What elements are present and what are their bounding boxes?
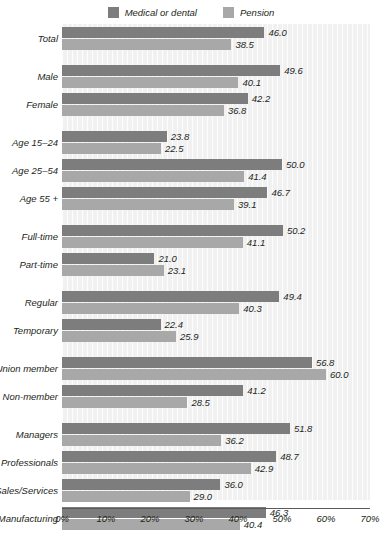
category-label: Male: [0, 62, 58, 90]
bar-pension: [62, 105, 224, 116]
bar-medical: [62, 159, 282, 170]
bar-row: 41.2: [62, 385, 382, 396]
bar-group-list: Total46.038.5Male49.640.1Female42.236.8A…: [0, 24, 382, 532]
bar-group: Age 25–5450.041.4: [0, 156, 382, 184]
bar-medical: [62, 93, 248, 104]
bar-value-label: 42.2: [252, 93, 271, 104]
bar-row: 21.0: [62, 253, 382, 264]
bar-value-label: 23.1: [168, 265, 187, 276]
bar-pension: [62, 237, 243, 248]
bar-group: Total46.038.5: [0, 24, 382, 52]
bar-row: 36.8: [62, 105, 382, 116]
bar-group: Male49.640.1: [0, 62, 382, 90]
bar-row: 51.8: [62, 423, 382, 434]
bar-value-label: 50.2: [287, 225, 306, 236]
bar-row: 42.2: [62, 93, 382, 104]
x-tick-label: 0%: [55, 512, 69, 526]
x-tick-label: 60%: [316, 512, 335, 526]
bar-row: 28.5: [62, 397, 382, 408]
bar-medical: [62, 357, 312, 368]
bar-row: 56.8: [62, 357, 382, 368]
x-axis: 0%10%20%30%40%50%60%70%: [0, 508, 382, 542]
bar-row: 60.0: [62, 369, 382, 380]
bar-row: 41.1: [62, 237, 382, 248]
bar-pension: [62, 39, 231, 50]
bar-group: Female42.236.8: [0, 90, 382, 118]
bar-pension: [62, 331, 176, 342]
bar-group: Full-time50.241.1: [0, 222, 382, 250]
legend-label: Pension: [240, 7, 274, 18]
bar-row: 23.8: [62, 131, 382, 142]
bar-value-label: 39.1: [238, 199, 257, 210]
bar-group: Age 55 +46.739.1: [0, 184, 382, 212]
category-label: Age 25–54: [0, 156, 58, 184]
x-tick-label: 20%: [140, 512, 159, 526]
bar-row: 49.4: [62, 291, 382, 302]
category-label: Part-time: [0, 250, 58, 278]
bar-medical: [62, 27, 264, 38]
category-label: Professionals: [0, 448, 58, 476]
legend-swatch-icon: [108, 7, 119, 18]
bar-medical: [62, 65, 280, 76]
bar-pension: [62, 171, 244, 182]
bar-value-label: 23.8: [171, 131, 190, 142]
chart-legend: Medical or dentalPension: [0, 2, 382, 22]
bar-medical: [62, 253, 154, 264]
category-label: Union member: [0, 354, 58, 382]
bar-group: Age 15–2423.822.5: [0, 128, 382, 156]
bar-medical: [62, 131, 167, 142]
bar-medical: [62, 423, 290, 434]
bar-group: Temporary22.425.9: [0, 316, 382, 344]
bar-row: 22.4: [62, 319, 382, 330]
bar-value-label: 56.8: [316, 357, 335, 368]
bar-pension: [62, 463, 251, 474]
bar-row: 38.5: [62, 39, 382, 50]
bar-value-label: 38.5: [235, 39, 254, 50]
bar-group: Union member56.860.0: [0, 354, 382, 382]
bar-row: 25.9: [62, 331, 382, 342]
bar-row: 50.2: [62, 225, 382, 236]
category-label: Managers: [0, 420, 58, 448]
category-label: Female: [0, 90, 58, 118]
bar-row: 39.1: [62, 199, 382, 210]
bar-pension: [62, 491, 190, 502]
bar-value-label: 48.7: [280, 451, 299, 462]
bar-value-label: 36.8: [228, 105, 247, 116]
bar-value-label: 46.0: [268, 27, 287, 38]
legend-item-pension: Pension: [223, 7, 274, 18]
category-label: Non-member: [0, 382, 58, 410]
bar-value-label: 49.4: [283, 291, 302, 302]
bar-pension: [62, 77, 238, 88]
bar-pension: [62, 199, 234, 210]
bar-value-label: 21.0: [158, 253, 177, 264]
bar-value-label: 46.7: [271, 187, 290, 198]
x-tick-label: 50%: [272, 512, 291, 526]
bar-medical: [62, 319, 161, 330]
bar-value-label: 50.0: [286, 159, 305, 170]
bar-value-label: 42.9: [255, 463, 274, 474]
bar-row: 46.7: [62, 187, 382, 198]
bar-value-label: 36.0: [224, 479, 243, 490]
legend-label: Medical or dental: [125, 7, 197, 18]
bar-value-label: 28.5: [191, 397, 210, 408]
bar-row: 40.1: [62, 77, 382, 88]
bar-row: 40.3: [62, 303, 382, 314]
bar-group: Regular49.440.3: [0, 288, 382, 316]
bar-row: 23.1: [62, 265, 382, 276]
bar-group: Sales/Services36.029.0: [0, 476, 382, 504]
bar-row: 22.5: [62, 143, 382, 154]
bar-value-label: 25.9: [180, 331, 199, 342]
bar-value-label: 36.2: [225, 435, 244, 446]
bar-row: 42.9: [62, 463, 382, 474]
bar-medical: [62, 187, 267, 198]
bar-group: Part-time21.023.1: [0, 250, 382, 278]
bar-pension: [62, 303, 239, 314]
category-label: Full-time: [0, 222, 58, 250]
bar-group: Professionals48.742.9: [0, 448, 382, 476]
x-axis-tick-labels: 0%10%20%30%40%50%60%70%: [0, 512, 382, 528]
bar-group: Managers51.836.2: [0, 420, 382, 448]
bar-chart: Medical or dentalPension Total46.038.5Ma…: [0, 0, 382, 546]
bar-pension: [62, 369, 326, 380]
bar-row: 29.0: [62, 491, 382, 502]
bar-value-label: 41.4: [248, 171, 267, 182]
